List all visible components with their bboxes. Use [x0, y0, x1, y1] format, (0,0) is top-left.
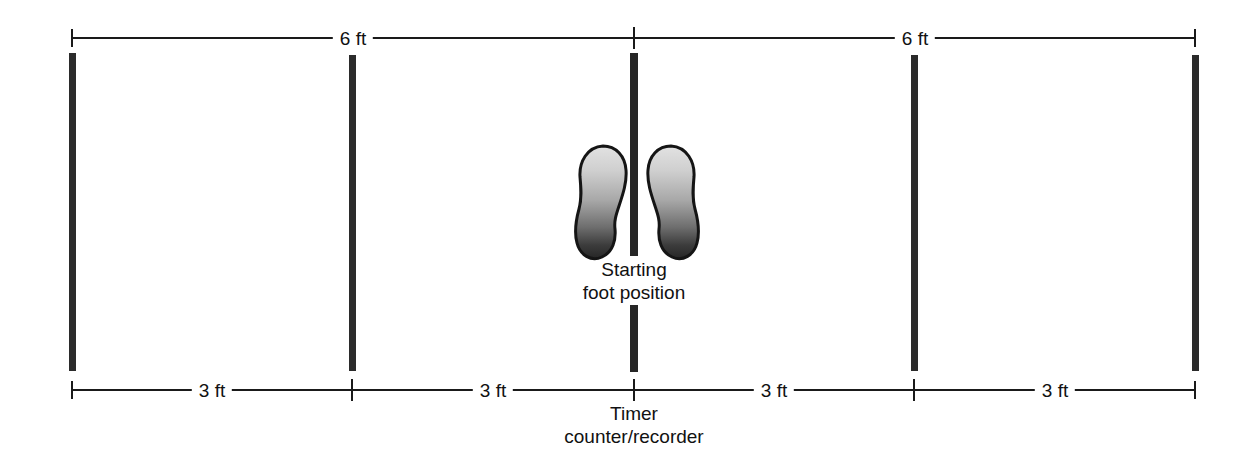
diagram-canvas: 6 ft 6 ft	[0, 0, 1259, 462]
left-footprint	[573, 144, 629, 262]
top-tick-left	[71, 29, 73, 47]
bottom-dimension-label-4: 3 ft	[1035, 381, 1075, 400]
marker-bar-center-lower	[630, 305, 638, 372]
marker-bar-center-upper	[630, 53, 638, 256]
bottom-dimension-label-2: 3 ft	[473, 381, 513, 400]
bottom-dimension-label-1: 3 ft	[192, 381, 232, 400]
marker-bar-1	[69, 53, 76, 371]
starting-foot-position-line1: Starting	[583, 258, 685, 281]
bottom-tick-1	[71, 381, 73, 399]
marker-bar-4	[911, 55, 918, 371]
bottom-tick-2	[351, 379, 353, 401]
top-tick-right	[1194, 29, 1196, 47]
marker-bar-2	[349, 55, 356, 371]
starting-foot-position-line2: foot position	[583, 281, 685, 304]
bottom-tick-5	[1194, 381, 1196, 399]
top-dimension-label-left: 6 ft	[333, 29, 373, 48]
marker-bar-5	[1192, 55, 1199, 371]
top-dimension-label-right: 6 ft	[895, 29, 935, 48]
bottom-tick-4	[913, 379, 915, 401]
timer-annotation-line1: Timer	[564, 402, 703, 425]
right-footprint	[645, 144, 701, 262]
timer-counter-recorder-annotation: Timer counter/recorder	[564, 402, 703, 448]
starting-foot-position-annotation: Starting foot position	[583, 258, 685, 304]
bottom-tick-3	[633, 379, 635, 401]
bottom-dimension-label-3: 3 ft	[754, 381, 794, 400]
timer-annotation-line2: counter/recorder	[564, 425, 703, 448]
top-tick-center	[633, 27, 635, 49]
